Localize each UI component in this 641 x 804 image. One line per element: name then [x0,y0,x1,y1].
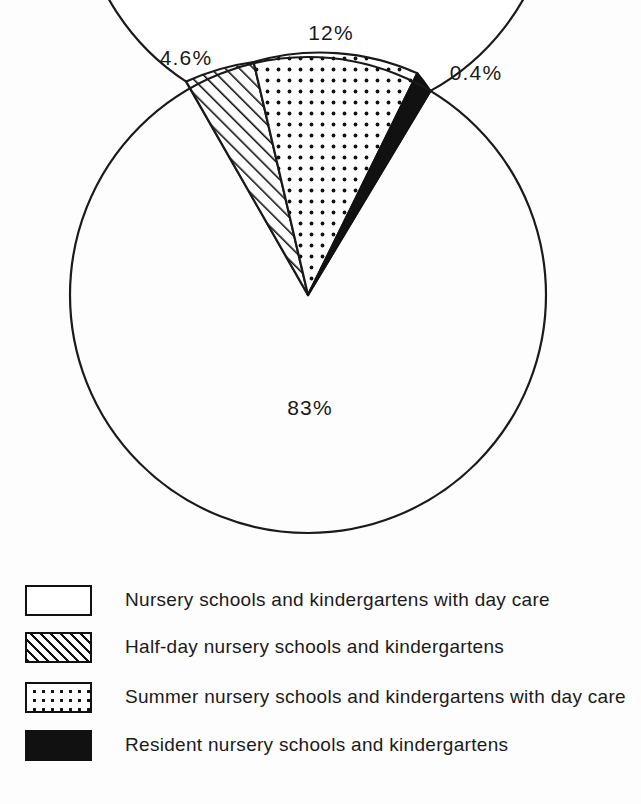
legend-item-hatched[interactable]: Half-day nursery schools and kindergarte… [25,630,504,664]
dotted-swatch-icon [25,682,92,713]
legend-item-white[interactable]: Nursery schools and kindergartens with d… [25,583,550,617]
legend-label-hatched: Half-day nursery schools and kindergarte… [125,636,504,658]
hatched-swatch-icon [25,632,92,663]
pie-chart-svg [0,0,641,560]
chart-legend: Nursery schools and kindergartens with d… [0,565,641,800]
pie-label-white-pct: 83% [287,396,333,420]
legend-label-white: Nursery schools and kindergartens with d… [125,589,550,611]
pie-label-hatched-pct: 4.6% [160,46,213,70]
legend-item-dotted[interactable]: Summer nursery schools and kindergartens… [25,680,626,714]
pie-label-dotted-pct: 12% [308,21,354,45]
pie-chart-page: 4.6% 12% 0.4% 83% Nursery schools and ki… [0,0,641,804]
pie-chart-figure: 4.6% 12% 0.4% 83% [0,0,641,560]
legend-label-solid-black: Resident nursery schools and kindergarte… [125,734,508,756]
legend-label-dotted: Summer nursery schools and kindergartens… [125,686,626,708]
legend-item-solid-black[interactable]: Resident nursery schools and kindergarte… [25,728,508,762]
white-swatch-icon [25,585,92,616]
pie-label-black-pct: 0.4% [450,61,503,85]
solid-black-swatch-icon [25,730,92,761]
